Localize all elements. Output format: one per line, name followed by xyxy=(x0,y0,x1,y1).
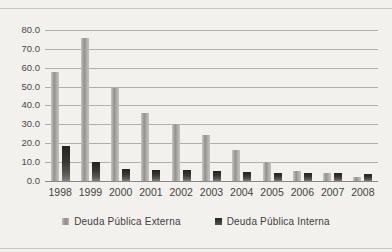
y-tick-label: 50.0 xyxy=(0,82,40,92)
legend-label-externa: Deuda Pública Externa xyxy=(74,216,181,227)
bar-group-1998 xyxy=(45,30,75,181)
bar-externa xyxy=(202,135,210,181)
bar-group-2008 xyxy=(348,30,378,181)
bar-interna xyxy=(213,171,221,181)
bar-interna xyxy=(304,173,312,181)
chart-image: 0.010.020.030.040.050.060.070.080.0 1998… xyxy=(0,0,392,252)
y-tick-label: 70.0 xyxy=(0,44,40,54)
bar-interna xyxy=(364,174,372,181)
bar-externa xyxy=(172,124,180,181)
bar-interna xyxy=(152,170,160,181)
x-tick-label: 2002 xyxy=(166,186,196,198)
plot-area xyxy=(45,30,378,182)
legend-label-interna: Deuda Pública Interna xyxy=(227,216,330,227)
bar-externa xyxy=(263,162,271,181)
bar-externa xyxy=(353,177,361,181)
x-tick-label: 2003 xyxy=(196,186,226,198)
x-tick-label: 1998 xyxy=(45,186,75,198)
bar-group-2003 xyxy=(196,30,226,181)
y-tick-label: 60.0 xyxy=(0,63,40,73)
bar-interna xyxy=(274,173,282,181)
bar-externa xyxy=(111,88,119,181)
bar-group-2001 xyxy=(136,30,166,181)
bar-group-2005 xyxy=(257,30,287,181)
bar-group-2000 xyxy=(106,30,136,181)
bar-externa xyxy=(141,113,149,181)
bar-group-2004 xyxy=(227,30,257,181)
legend-item-externa: Deuda Pública Externa xyxy=(62,216,181,227)
bar-interna xyxy=(243,172,251,181)
y-tick-label: 10.0 xyxy=(0,157,40,167)
x-tick-label: 2006 xyxy=(287,186,317,198)
legend-marker-externa-icon xyxy=(62,218,69,225)
x-tick-label: 1999 xyxy=(75,186,105,198)
y-tick-label: 20.0 xyxy=(0,138,40,148)
bar-group-2006 xyxy=(287,30,317,181)
x-axis-labels: 1998199920002001200220032004200520062007… xyxy=(45,186,378,200)
y-tick-label: 40.0 xyxy=(0,100,40,110)
bar-group-1999 xyxy=(75,30,105,181)
bar-interna xyxy=(122,169,130,181)
x-tick-label: 2004 xyxy=(227,186,257,198)
bar-externa xyxy=(51,72,59,181)
y-axis-labels: 0.010.020.030.040.050.060.070.080.0 xyxy=(0,30,40,181)
bar-interna xyxy=(334,173,342,181)
bar-externa xyxy=(232,150,240,181)
bar-externa xyxy=(323,173,331,181)
x-tick-label: 2005 xyxy=(257,186,287,198)
y-tick-label: 0.0 xyxy=(0,176,40,186)
y-tick-label: 80.0 xyxy=(0,25,40,35)
bar-externa xyxy=(293,171,301,181)
bar-interna xyxy=(92,162,100,181)
bar-interna xyxy=(62,146,70,181)
bar-externa xyxy=(81,38,89,181)
bar-group-2002 xyxy=(166,30,196,181)
x-tick-label: 2008 xyxy=(348,186,378,198)
x-tick-label: 2007 xyxy=(317,186,347,198)
bar-interna xyxy=(183,170,191,181)
y-tick-label: 30.0 xyxy=(0,119,40,129)
bar-group-2007 xyxy=(317,30,347,181)
legend: Deuda Pública Externa Deuda Pública Inte… xyxy=(0,216,392,227)
legend-marker-interna-icon xyxy=(215,218,222,225)
legend-item-interna: Deuda Pública Interna xyxy=(215,216,330,227)
x-tick-label: 2001 xyxy=(136,186,166,198)
x-tick-label: 2000 xyxy=(106,186,136,198)
